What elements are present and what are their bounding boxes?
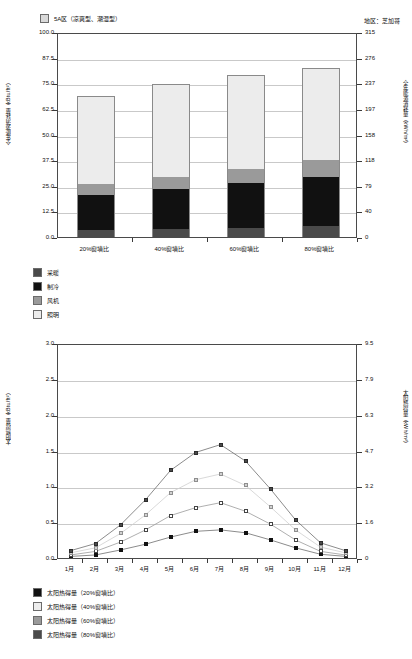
x-tick <box>107 559 108 563</box>
stacked-bar <box>302 34 340 237</box>
bar-segment-制冷 <box>152 189 190 228</box>
bottom-plot-area <box>57 344 357 559</box>
tick-mark <box>357 487 362 488</box>
tick-mark <box>52 559 57 560</box>
tick-mark <box>52 344 57 345</box>
data-point-太阳热得量（60%窗墙比） <box>194 478 198 482</box>
tick-label: 87.5 <box>22 55 54 61</box>
tick-label: 0.5 <box>26 519 54 525</box>
solar-heat-gain-line-chart: 太阳热得量（kBtu/ft²） 太阳热得量（kWh/m²） 3.02.52.01… <box>0 330 412 659</box>
tick-label: 75.0 <box>22 80 54 86</box>
legend-swatch <box>33 616 42 625</box>
legend-swatch <box>33 588 42 597</box>
tick-mark <box>52 523 57 524</box>
data-point-太阳热得量（20%窗墙比） <box>194 529 198 533</box>
data-point-太阳热得量（60%窗墙比） <box>94 546 98 550</box>
tick-label: 2.5 <box>26 376 54 382</box>
data-point-太阳热得量（80%窗墙比） <box>244 459 248 463</box>
bar-segment-风机 <box>302 160 340 177</box>
legend-item-2: 太阳热得量（60%窗墙比） <box>33 616 119 625</box>
x-axis-label: 60%窗墙比 <box>205 244 285 253</box>
tick-label: 12.5 <box>22 208 54 214</box>
bar-segment-照明 <box>152 84 190 177</box>
chart-title-legend: 5A区（凉爽型、潮湿型） <box>40 14 121 23</box>
tick-label: 25.0 <box>22 183 54 189</box>
bottom-y-right-axis-title: 太阳热得量（kWh/m²） <box>402 390 410 446</box>
tick-label: 276 <box>365 55 375 61</box>
data-point-太阳热得量（20%窗墙比） <box>294 546 298 550</box>
x-tick <box>182 559 183 563</box>
line-paths <box>58 345 358 560</box>
tick-label: 1.5 <box>26 448 54 454</box>
data-point-太阳热得量（80%窗墙比） <box>269 487 273 491</box>
data-point-太阳热得量（60%窗墙比） <box>269 505 273 509</box>
legend-label: 太阳热得量（40%窗墙比） <box>47 602 119 611</box>
tick-label: 0 <box>365 234 368 240</box>
x-axis-label: 80%窗墙比 <box>280 244 360 253</box>
data-point-太阳热得量（40%窗墙比） <box>319 549 323 553</box>
stacked-bar <box>227 34 265 237</box>
bar-segment-采暖 <box>77 230 115 237</box>
data-point-太阳热得量（40%窗墙比） <box>94 549 98 553</box>
tick-mark <box>52 59 57 60</box>
legend-swatch <box>33 282 42 291</box>
legend-swatch <box>33 296 42 305</box>
legend-item-1: 太阳热得量（40%窗墙比） <box>33 602 119 611</box>
legend-item-制冷: 制冷 <box>33 282 59 291</box>
data-point-太阳热得量（60%窗墙比） <box>244 483 248 487</box>
x-tick <box>82 559 83 563</box>
legend-swatch <box>33 630 42 639</box>
legend-label: 太阳热得量（80%窗墙比） <box>47 630 119 639</box>
x-tick <box>232 559 233 563</box>
data-point-太阳热得量（40%窗墙比） <box>119 540 123 544</box>
bar-segment-风机 <box>77 184 115 195</box>
data-point-太阳热得量（20%窗墙比） <box>169 535 173 539</box>
tick-mark <box>52 487 57 488</box>
data-point-太阳热得量（20%窗墙比） <box>144 542 148 546</box>
data-point-太阳热得量（60%窗墙比） <box>144 513 148 517</box>
data-point-太阳热得量（80%窗墙比） <box>319 541 323 545</box>
tick-mark <box>357 187 362 188</box>
bar-segment-采暖 <box>227 228 265 237</box>
tick-mark <box>357 523 362 524</box>
data-point-太阳热得量（80%窗墙比） <box>69 549 73 553</box>
data-point-太阳热得量（40%窗墙比） <box>144 528 148 532</box>
tick-label: 158 <box>365 132 375 138</box>
tick-mark <box>357 212 362 213</box>
tick-label: 2.0 <box>26 412 54 418</box>
tick-label: 237 <box>365 80 375 86</box>
tick-label: 6.3 <box>365 412 373 418</box>
tick-label: 3.2 <box>365 483 373 489</box>
tick-mark <box>52 416 57 417</box>
tick-label: 79 <box>365 183 372 189</box>
tick-label: 1.6 <box>365 519 373 525</box>
tick-label: 7.9 <box>365 376 373 382</box>
data-point-太阳热得量（40%窗墙比） <box>244 509 248 513</box>
legend-label: 照明 <box>47 310 59 319</box>
tick-label: 0.0 <box>26 555 54 561</box>
stacked-bar <box>77 34 115 237</box>
data-point-太阳热得量（20%窗墙比） <box>269 538 273 542</box>
tick-mark <box>52 238 57 239</box>
tick-mark <box>52 33 57 34</box>
data-point-太阳热得量（40%窗墙比） <box>219 501 223 505</box>
legend-label: 采暖 <box>47 268 59 277</box>
tick-label: 197 <box>365 106 375 112</box>
tick-mark <box>357 344 362 345</box>
legend-label: 太阳热得量（20%窗墙比） <box>47 588 119 597</box>
bar-segment-风机 <box>152 177 190 189</box>
data-point-太阳热得量（40%窗墙比） <box>169 514 173 518</box>
tick-label: 37.5 <box>22 157 54 163</box>
x-tick <box>157 559 158 563</box>
tick-mark <box>357 452 362 453</box>
bar-segment-照明 <box>77 96 115 185</box>
x-axis-label: 20%窗墙比 <box>55 244 135 253</box>
legend-item-照明: 照明 <box>33 310 59 319</box>
x-tick <box>282 238 283 242</box>
tick-mark <box>52 380 57 381</box>
data-point-太阳热得量（60%窗墙比） <box>294 528 298 532</box>
x-tick <box>207 559 208 563</box>
data-point-太阳热得量（20%窗墙比） <box>94 553 98 557</box>
x-tick <box>357 559 358 563</box>
tick-label: 50.0 <box>22 132 54 138</box>
